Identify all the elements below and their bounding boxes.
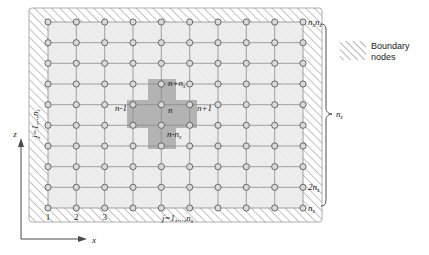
z-axis-arrowhead xyxy=(18,138,24,147)
axis-label-x: x xyxy=(91,235,96,245)
stencil-label-center: n xyxy=(168,105,173,115)
right-brace xyxy=(321,24,332,206)
label-j-index-x: j=1,...,nx xyxy=(161,213,194,224)
svg-text:j=1,..,nz: j=1,..,nz xyxy=(30,108,41,139)
label-j-index-z: j=1,..,nz xyxy=(30,108,41,139)
label-bottom-2: 2 xyxy=(74,212,79,222)
label-bottom-3: 3 xyxy=(102,212,107,222)
stencil-label-right: n+1 xyxy=(197,103,212,113)
stencil-label-left: n-1 xyxy=(115,103,127,113)
grid-diagram: n+nx n-1 n n+1 n-nx nxnz 2nx nx nz j=1,.… xyxy=(0,0,429,255)
figure-container: n+nx n-1 n n+1 n-nx nxnz 2nx nx nz j=1,.… xyxy=(0,0,429,255)
legend-boundary-nodes: Boundary nodes xyxy=(340,41,410,62)
axis-label-z: z xyxy=(12,129,17,139)
x-axis-arrowhead xyxy=(78,236,87,242)
label-nz-brace: nz xyxy=(336,109,344,120)
legend-label-line2: nodes xyxy=(371,52,396,62)
label-bottom-1: 1 xyxy=(46,212,51,222)
legend-hatch-swatch xyxy=(340,41,366,60)
legend-label-line1: Boundary xyxy=(371,41,410,51)
